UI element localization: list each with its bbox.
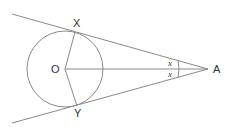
angle-label-bottom: x (168, 70, 172, 79)
label-X: X (73, 18, 80, 29)
radius-OX (65, 32, 75, 69)
label-A: A (213, 64, 220, 75)
radius-OY (65, 69, 77, 106)
geometry-diagram (0, 0, 236, 127)
label-Y: Y (74, 108, 81, 119)
angle-label-top: x (168, 59, 172, 68)
label-O: O (51, 64, 60, 75)
